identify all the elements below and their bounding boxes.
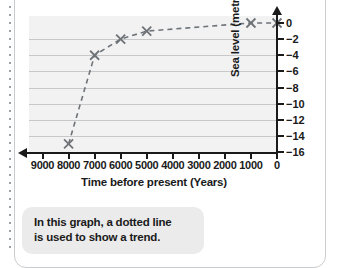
- y-axis-tick: [278, 103, 284, 105]
- x-axis-tick-label: 9000: [31, 159, 54, 171]
- data-point-markers: [64, 19, 281, 149]
- y-axis-tick: [278, 119, 284, 121]
- y-axis-arrow-icon: [272, 6, 282, 15]
- data-point-marker-x: [64, 139, 73, 148]
- y-axis-tick: [278, 70, 284, 72]
- y-axis-title: Sea level (metres): [229, 0, 245, 100]
- x-axis-tick-label: 7000: [83, 159, 106, 171]
- y-axis-tick-label: −10: [286, 98, 305, 110]
- x-axis-tick-label: 3000: [187, 159, 210, 171]
- y-axis-tick-label: −8: [286, 82, 299, 94]
- x-axis-tick-label: 1000: [239, 159, 262, 171]
- y-axis-tick: [278, 38, 284, 40]
- y-axis-tick-label: −16: [286, 146, 305, 158]
- caption-box: In this graph, a dotted line is used to …: [22, 207, 204, 254]
- x-axis-title: Time before present (Years): [29, 176, 279, 188]
- data-point-marker-x: [90, 51, 99, 60]
- x-axis-tick-label: 0: [274, 159, 280, 171]
- y-axis-tick-label: −4: [286, 49, 299, 61]
- x-axis-tick-label: 6000: [109, 159, 132, 171]
- caption-line-2: is used to show a trend.: [34, 230, 192, 245]
- x-axis-line: [25, 152, 278, 154]
- sea-level-chart: 9000800070006000500040003000200010000 0−…: [0, 0, 344, 200]
- y-axis-tick: [278, 54, 284, 56]
- y-axis-tick-label: −14: [286, 130, 305, 142]
- x-axis-tick-label: 8000: [57, 159, 80, 171]
- y-axis-tick: [278, 151, 284, 153]
- y-axis-tick: [278, 135, 284, 137]
- caption-line-1: In this graph, a dotted line: [34, 215, 192, 230]
- y-axis-tick-label: 0: [286, 17, 292, 29]
- x-axis-arrow-icon: [18, 148, 27, 158]
- x-axis-tick-label: 4000: [161, 159, 184, 171]
- y-axis-tick: [278, 87, 284, 89]
- data-point-marker-x: [116, 35, 125, 44]
- data-point-marker-x: [246, 19, 255, 28]
- y-axis-tick-label: −6: [286, 65, 299, 77]
- x-axis-tick-label: 2000: [213, 159, 236, 171]
- y-axis-tick-label: −12: [286, 114, 305, 126]
- y-axis-tick: [278, 22, 284, 24]
- x-axis-tick-label: 5000: [135, 159, 158, 171]
- y-axis-line: [276, 13, 278, 153]
- trend-dashed-line: [69, 23, 277, 144]
- y-axis-tick-label: −2: [286, 33, 299, 45]
